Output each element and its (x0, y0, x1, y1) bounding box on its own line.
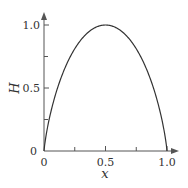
y-tick-label-0.5: 0.5 (23, 82, 41, 95)
y-axis-title: H (7, 82, 22, 95)
y-tick-label-0: 0 (30, 145, 37, 158)
x-ticks (75, 146, 167, 151)
entropy-curve (44, 25, 167, 151)
entropy-chart: 0 0.5 1.0 0 0.5 1.0 x H (0, 0, 188, 188)
x-tick-label-1.0: 1.0 (158, 156, 176, 169)
y-tick-label-1.0: 1.0 (23, 19, 41, 32)
x-axis-arrow-icon (171, 148, 179, 154)
y-axis-arrow-icon (41, 12, 47, 20)
x-tick-label-0: 0 (41, 156, 48, 169)
y-ticks (44, 25, 49, 120)
x-axis-title: x (101, 166, 109, 181)
